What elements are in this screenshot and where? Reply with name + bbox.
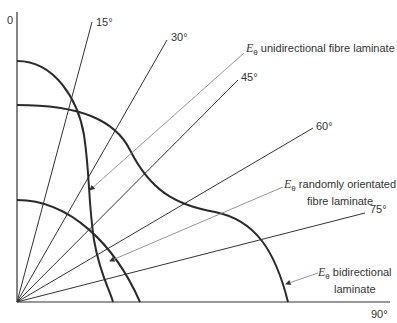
bidirectional-label: Eθ bidirectional laminate [318,266,392,295]
angle-label-30: 30° [171,31,188,43]
leader-random [110,187,283,261]
y-axis-label: 0 [7,14,13,26]
random-laminate-label: Eθ randomly orientated fibre laminate [284,178,396,207]
x-axis-end-label: 90° [371,308,388,320]
angle-label-15: 15° [96,16,113,28]
leader-bidirectional [286,273,318,284]
angle-line-15 [17,22,92,302]
leader-unidirectional [90,53,244,190]
angle-label-60: 60° [316,120,333,132]
unidirectional-label: Eθ unidirectional fibre laminate [246,42,395,59]
angle-label-45: 45° [241,71,258,83]
angle-line-30 [17,40,167,302]
angle-line-60 [17,128,313,302]
unidirectional-curve [17,61,113,302]
